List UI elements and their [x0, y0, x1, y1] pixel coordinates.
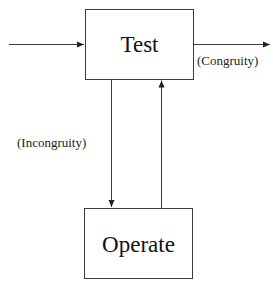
test-label: Test — [121, 32, 160, 57]
congruity-label: (Congruity) — [197, 53, 258, 68]
test-node: Test — [86, 10, 194, 80]
tote-diagram: Test (Congruity) (Incongruity) Operate — [0, 0, 273, 285]
operate-node: Operate — [85, 209, 193, 279]
operate-label: Operate — [102, 232, 175, 257]
incongruity-label: (Incongruity) — [17, 135, 86, 150]
